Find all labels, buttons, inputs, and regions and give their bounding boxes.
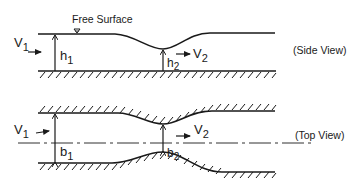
upper-wall-line [38, 111, 275, 124]
side-view: Free Surface h1 h2 V1 V2 (Side View) [14, 13, 347, 78]
v1-top-flow-arrow [36, 131, 49, 133]
v2-top-label: V2 [194, 122, 209, 140]
top-view-caption: (Top View) [295, 129, 344, 141]
b2-label: b2 [167, 146, 180, 162]
lower-wall-hatching [40, 153, 276, 178]
channel-contraction-diagram: Free Surface h1 h2 V1 V2 (Side View) [0, 0, 352, 194]
bed-hatching [40, 72, 276, 78]
v1-top-label: V1 [14, 122, 29, 140]
free-surface-marker-icon [74, 29, 80, 33]
top-view: b1 b2 V1 V2 (Top View) [14, 104, 344, 178]
side-view-caption: (Side View) [293, 44, 347, 56]
lower-wall-line [38, 152, 275, 172]
v2-side-label: V2 [193, 46, 208, 64]
free-surface-label: Free Surface [72, 13, 133, 25]
b1-label: b1 [60, 144, 73, 162]
h1-label: h1 [60, 48, 73, 66]
free-surface-line [38, 33, 275, 49]
v1-side-label: V1 [14, 35, 29, 53]
h2-label: h2 [167, 56, 180, 72]
